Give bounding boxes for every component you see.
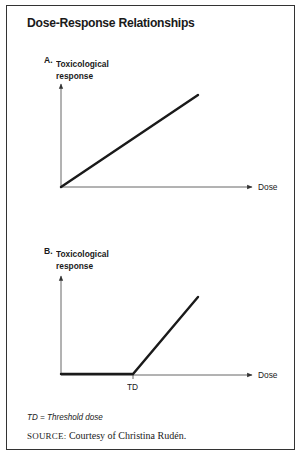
plots-canvas xyxy=(0,0,306,457)
panel-a-axes xyxy=(61,84,252,187)
source-text: Courtesy of Christina Rudén. xyxy=(66,430,186,441)
source-label: SOURCE: xyxy=(27,431,66,441)
source-credit: SOURCE: Courtesy of Christina Rudén. xyxy=(27,430,186,441)
panel-b-threshold-curve xyxy=(61,297,198,374)
threshold-note: TD = Threshold dose xyxy=(27,412,103,422)
panel-a-linear-curve xyxy=(61,95,198,187)
panel-b-axes xyxy=(61,276,252,379)
